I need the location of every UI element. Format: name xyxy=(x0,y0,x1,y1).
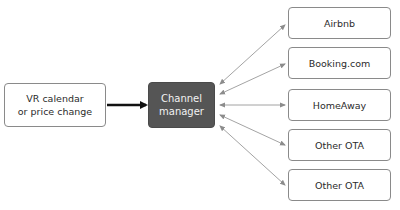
hub-label-line1: Channel xyxy=(159,92,204,105)
target-node-booking: Booking.com xyxy=(288,47,391,79)
link-airbnb xyxy=(220,25,285,84)
hub-label-line2: manager xyxy=(159,105,204,118)
link-other-ota-1 xyxy=(220,115,285,145)
source-node: VR calendar or price change xyxy=(4,83,106,127)
channel-manager-node: Channel manager xyxy=(148,82,215,128)
link-booking xyxy=(220,64,285,94)
target-label: Other OTA xyxy=(315,139,364,152)
target-node-airbnb: Airbnb xyxy=(288,7,391,39)
source-label-line2: or price change xyxy=(18,105,92,118)
target-label: HomeAway xyxy=(313,99,366,112)
link-other-ota-2 xyxy=(220,126,285,185)
target-label: Booking.com xyxy=(309,57,371,70)
target-label: Airbnb xyxy=(324,17,355,30)
target-node-other-ota-2: Other OTA xyxy=(288,169,391,201)
target-node-homeaway: HomeAway xyxy=(288,89,391,121)
target-label: Other OTA xyxy=(315,179,364,192)
target-node-other-ota-1: Other OTA xyxy=(288,129,391,161)
source-label-line1: VR calendar xyxy=(18,92,92,105)
